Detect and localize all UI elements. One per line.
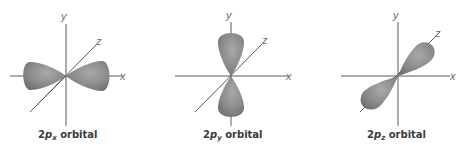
orbital-lobe-lower-left bbox=[361, 76, 398, 110]
orbital-lobe-bottom bbox=[218, 76, 244, 117]
x-axis-label: x bbox=[285, 70, 292, 82]
x-axis-label: x bbox=[449, 70, 456, 82]
orbital-2px-diagram: y z x bbox=[0, 0, 160, 130]
orbital-lobe-right bbox=[66, 61, 110, 91]
z-axis-label: z bbox=[434, 27, 441, 39]
y-axis-label: y bbox=[225, 9, 233, 21]
z-axis-label: z bbox=[261, 34, 268, 46]
orbital-caption-2py: 2py orbital bbox=[203, 129, 263, 142]
orbital-caption-2pz: 2pz orbital bbox=[367, 129, 426, 142]
orbital-lobe-top bbox=[218, 33, 244, 76]
orbital-lobe-left bbox=[23, 62, 66, 90]
y-axis-label: y bbox=[392, 9, 400, 21]
z-axis-label: z bbox=[95, 35, 102, 47]
y-axis-label: y bbox=[60, 10, 68, 22]
orbital-lobe-upper-right bbox=[398, 42, 435, 76]
orbital-2py-diagram: y z x bbox=[160, 0, 310, 130]
orbital-panel-2px: y z x 2px orbital bbox=[0, 0, 160, 155]
orbital-caption-2px: 2px orbital bbox=[38, 129, 97, 142]
orbital-panel-2py: y z x 2py orbital bbox=[160, 0, 310, 155]
orbital-2pz-diagram: y z x bbox=[310, 0, 472, 130]
x-axis-label: x bbox=[119, 70, 126, 82]
orbital-panel-2pz: y z x 2pz orbital bbox=[310, 0, 472, 155]
